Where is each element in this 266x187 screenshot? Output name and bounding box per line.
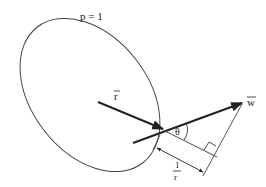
svg-text:1: 1 <box>175 160 180 170</box>
theta-label: θ <box>175 126 180 137</box>
r-vector-arrow <box>98 102 163 129</box>
projection-line <box>165 131 217 157</box>
level-curve-ellipse <box>0 0 189 187</box>
one-over-r-label: 1 r <box>173 160 181 182</box>
geometry-diagram: p = 1 r w θ 1 r <box>0 0 266 187</box>
svg-text:w: w <box>247 96 255 108</box>
distance-dimension-arrow <box>157 148 203 172</box>
w-vector-label: w <box>247 96 256 108</box>
p-equals-1-label: p = 1 <box>80 10 103 22</box>
theta-arc <box>184 123 188 140</box>
dimension-tick <box>153 135 160 150</box>
r-vector-label: r <box>114 90 120 102</box>
right-angle-marker <box>204 142 216 150</box>
svg-text:r: r <box>174 172 177 182</box>
svg-text:r: r <box>114 90 118 102</box>
